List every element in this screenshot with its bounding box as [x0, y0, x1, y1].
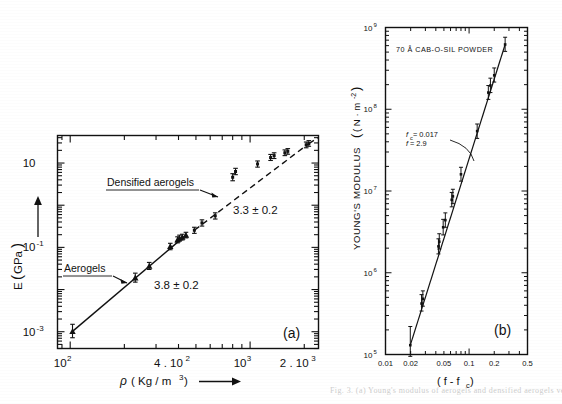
panel-b-xtick-label: 0.1: [464, 359, 475, 368]
panel-b-ytick-label: 10: [364, 24, 373, 33]
panel-a-ytick-exponent: -3: [37, 324, 45, 333]
youngs-modulus-text: YOUNG'S MODULUS: [351, 147, 362, 250]
panel-b-ytick-label: 10: [364, 351, 373, 360]
tau-value: = 2.9: [410, 139, 427, 148]
caption-fragment: Fig. 3. (a) Young's modulus of aerogels …: [330, 386, 562, 404]
densified-aerogels-label: Densified aerogels: [107, 176, 194, 188]
modulus-units-exponent: -2: [350, 93, 357, 99]
panel-a-xtick-exponent: 2: [67, 354, 72, 363]
panel-b-xtick-label: 0.01: [378, 359, 393, 368]
panel-a-xtick-exponent: 3: [247, 354, 252, 363]
rho-units-close: ): [184, 375, 188, 387]
aerogels-label: Aerogels: [64, 262, 105, 274]
exponent-low-label: 3.8 ± 0.2: [154, 279, 199, 291]
E-units-open: (: [8, 275, 25, 280]
panel-a-tag: (a): [283, 325, 300, 341]
panel-b-ytick-label: 10: [364, 105, 373, 114]
panel-b-xtick-label: 0.5: [522, 359, 533, 368]
panel-b-ytick-label: 10: [364, 187, 373, 196]
modulus-units: ( N · m: [351, 103, 362, 132]
panel-a-ytick-label: 10: [23, 326, 36, 338]
panel-a-xtick-label: 2 . 10: [280, 357, 309, 369]
E-units-close: ): [8, 243, 25, 248]
exponent-high-label: 3.3 ± 0.2: [233, 204, 278, 216]
figure-canvas: 1024 . 1021032 . 1031010-110-3 ρ ( Kg / …: [0, 0, 562, 404]
panel-b-yaxis-title: YOUNG'S MODULUS ( ( N · m -2 ): [348, 87, 363, 250]
panel-a-xtick-exponent: 2: [186, 354, 191, 363]
panel-a-xtick-label: 10: [54, 357, 67, 369]
panel-b-title: 70 Å CAB-O-SIL POWDER: [396, 45, 493, 54]
rho-symbol: ρ: [119, 374, 127, 388]
panel-b-ytick-label: 10: [364, 269, 373, 278]
panel-a-ytick-label: 10: [23, 157, 36, 169]
panel-b-xtick-label: 0.05: [437, 359, 452, 368]
panel-b-xtick-label: 0.02: [403, 359, 418, 368]
panel-a-xtick-label: 10: [234, 357, 247, 369]
fc-value: = 0.017: [413, 130, 438, 139]
panel-b-xtick-label: 0.2: [489, 359, 500, 368]
figure-background: [0, 0, 562, 404]
panel-a-xtick-exponent: 3: [311, 354, 316, 363]
panel-b-tag: (b): [494, 322, 511, 338]
modulus-units-open: (: [348, 133, 363, 138]
panel-a-xtick-label: 4 . 10: [154, 357, 183, 369]
E-units: GPa: [12, 250, 24, 274]
rho-units: ( Kg / m: [131, 375, 171, 387]
modulus-units-close: ): [348, 87, 363, 91]
panel-a-ytick-exponent: -1: [37, 239, 45, 248]
E-symbol: E: [12, 282, 24, 290]
figure-root: 1024 . 1021032 . 1031010-110-3 ρ ( Kg / …: [0, 0, 562, 404]
